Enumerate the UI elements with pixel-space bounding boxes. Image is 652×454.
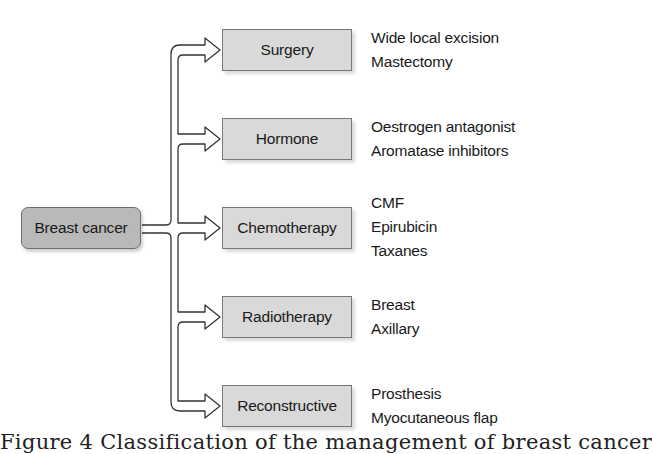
detail-item: Wide local excision [371,26,499,50]
node-radiotherapy: Radiotherapy [222,296,352,338]
node-label: Surgery [261,41,314,59]
detail-item: Myocutaneous flap [371,406,498,430]
details-radiotherapy: Breast Axillary [371,293,419,341]
node-label: Reconstructive [237,397,337,415]
details-chemotherapy: CMF Epirubicin Taxanes [371,191,437,263]
details-surgery: Wide local excision Mastectomy [371,26,499,74]
figure-caption: Figure 4 Classification of the managemen… [0,430,652,454]
node-chemotherapy: Chemotherapy [222,207,352,249]
detail-item: Aromatase inhibitors [371,139,515,163]
node-hormone: Hormone [222,118,352,160]
detail-item: Taxanes [371,239,437,263]
detail-item: CMF [371,191,437,215]
node-reconstructive: Reconstructive [222,385,352,427]
detail-item: Oestrogen antagonist [371,115,515,139]
detail-item: Epirubicin [371,215,437,239]
details-reconstructive: Prosthesis Myocutaneous flap [371,382,498,430]
node-label: Chemotherapy [237,219,336,237]
detail-item: Axillary [371,317,419,341]
node-label: Radiotherapy [242,308,332,326]
detail-item: Breast [371,293,419,317]
detail-item: Mastectomy [371,50,499,74]
root-node-label: Breast cancer [34,219,127,237]
node-surgery: Surgery [222,29,352,71]
details-hormone: Oestrogen antagonist Aromatase inhibitor… [371,115,515,163]
detail-item: Prosthesis [371,382,498,406]
root-node-breast-cancer: Breast cancer [21,207,141,249]
node-label: Hormone [256,130,318,148]
